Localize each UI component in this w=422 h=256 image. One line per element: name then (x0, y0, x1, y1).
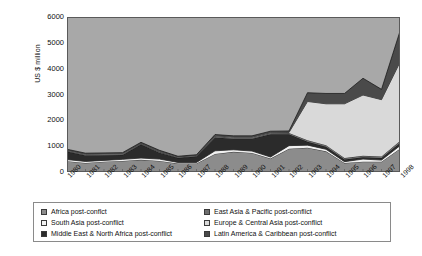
x-tick-label: 1998 (399, 163, 415, 179)
y-tick-label: 5000 (28, 39, 64, 47)
y-tick-label: 4000 (28, 65, 64, 73)
chart-figure: US $ million 6000500040003000200010000 1… (0, 0, 422, 256)
legend-grid: Africa post-conflctEast Asia & Pacific p… (41, 206, 385, 239)
legend-item[interactable]: South Asia post-conflict (41, 218, 204, 227)
legend-swatch-icon (41, 220, 47, 226)
legend-label: Latin America & Caribbean post-conflict (214, 229, 337, 238)
legend-label: South Asia post-conflict (51, 218, 124, 227)
y-tick-label: 1000 (28, 142, 64, 150)
legend-item[interactable]: Africa post-conflct (41, 207, 204, 216)
legend-label: Middle East & North Africa post-conflict (51, 229, 172, 238)
legend-swatch-icon (204, 209, 210, 215)
stacked-area-plot (67, 17, 400, 172)
legend-item[interactable]: Europe & Central Asia post-conflict (204, 218, 385, 227)
legend-item[interactable]: Latin America & Caribbean post-conflict (204, 229, 385, 238)
legend-item[interactable]: East Asia & Pacific post-conflict (204, 207, 385, 216)
chart-legend: Africa post-conflctEast Asia & Pacific p… (33, 202, 391, 242)
plot-area (67, 17, 400, 172)
legend-item[interactable]: Middle East & North Africa post-conflict (41, 229, 204, 238)
legend-swatch-icon (41, 231, 47, 237)
x-axis-tick-labels: 1980198119821983198419851986198719881989… (67, 174, 400, 204)
y-tick-label: 6000 (28, 13, 64, 21)
legend-label: East Asia & Pacific post-conflict (214, 207, 312, 216)
y-tick-label: 2000 (28, 116, 64, 124)
legend-label: Africa post-conflct (51, 207, 107, 216)
legend-swatch-icon (41, 209, 47, 215)
y-tick-label: 0 (28, 168, 64, 176)
legend-swatch-icon (204, 231, 210, 237)
legend-label: Europe & Central Asia post-conflict (214, 218, 322, 227)
y-tick-label: 3000 (28, 91, 64, 99)
legend-swatch-icon (204, 220, 210, 226)
